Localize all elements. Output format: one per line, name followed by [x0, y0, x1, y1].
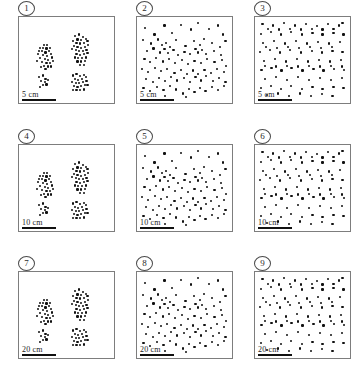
data-point: [319, 320, 321, 322]
data-point: [39, 312, 41, 314]
data-point: [36, 60, 38, 62]
data-point: [200, 190, 202, 192]
data-point: [177, 309, 179, 311]
data-point: [297, 204, 299, 206]
data-point: [41, 316, 43, 318]
data-point: [86, 52, 88, 54]
data-point: [73, 300, 75, 302]
data-point: [44, 51, 46, 53]
data-point: [321, 88, 323, 90]
data-point: [273, 295, 275, 297]
data-point: [284, 297, 286, 299]
data-point: [144, 27, 146, 29]
data-point: [312, 68, 314, 70]
data-point: [296, 313, 298, 315]
data-point: [40, 321, 42, 323]
data-point: [158, 332, 160, 334]
data-point: [42, 175, 44, 177]
data-point: [188, 343, 190, 345]
data-point: [341, 150, 343, 152]
data-point: [193, 315, 195, 317]
data-point: [280, 161, 282, 163]
data-point: [76, 46, 78, 48]
data-point: [142, 39, 144, 41]
data-point: [331, 46, 333, 48]
data-point: [279, 51, 281, 53]
data-point: [331, 350, 333, 352]
data-point: [175, 167, 177, 169]
data-point: [193, 91, 195, 93]
data-point: [174, 317, 176, 319]
data-point: [289, 177, 291, 179]
data-point: [74, 311, 76, 313]
data-point: [274, 186, 276, 188]
data-point: [76, 174, 78, 176]
data-point: [42, 54, 44, 56]
data-point: [153, 33, 155, 35]
data-point: [85, 49, 87, 51]
data-point: [338, 152, 340, 154]
panel-number-8: 8: [136, 256, 153, 271]
data-point: [177, 54, 179, 56]
data-point: [183, 179, 185, 181]
data-point: [263, 188, 265, 190]
data-point: [216, 68, 218, 70]
scale-bar-label: 5 cm: [140, 90, 174, 99]
data-point: [317, 169, 319, 171]
data-point: [180, 197, 182, 199]
data-point: [333, 196, 335, 198]
data-point: [340, 59, 342, 61]
data-point: [260, 33, 262, 35]
data-point: [41, 178, 43, 180]
data-point: [74, 35, 76, 37]
data-point: [285, 60, 287, 62]
data-point: [47, 59, 49, 61]
panel-number-1: 1: [18, 1, 35, 16]
data-point: [172, 304, 174, 306]
data-point: [40, 208, 42, 210]
data-point: [82, 50, 84, 52]
data-point: [37, 53, 39, 55]
data-point: [165, 170, 167, 172]
data-point: [290, 31, 292, 33]
data-point: [75, 201, 77, 203]
data-point: [311, 28, 313, 30]
data-point: [308, 65, 310, 67]
data-point: [332, 341, 334, 343]
data-point: [185, 96, 187, 98]
data-point: [343, 197, 345, 199]
data-point: [46, 44, 48, 46]
data-point: [51, 56, 53, 58]
data-point: [217, 24, 219, 26]
data-point: [218, 77, 220, 79]
data-point: [289, 283, 291, 285]
data-point: [275, 320, 277, 322]
data-point: [155, 312, 157, 314]
data-point: [275, 76, 277, 78]
plot-box-1: 5 cm: [18, 16, 115, 104]
data-point: [75, 344, 77, 346]
data-point: [175, 39, 177, 41]
data-point: [44, 313, 46, 315]
data-point: [39, 302, 41, 304]
data-point: [181, 59, 183, 61]
data-point: [269, 49, 271, 51]
data-point: [264, 320, 266, 322]
plot-box-3: 5 cm: [254, 16, 351, 104]
data-point: [39, 175, 41, 177]
data-point: [144, 155, 146, 157]
data-point: [161, 172, 163, 174]
data-point: [224, 295, 226, 297]
data-point: [46, 299, 48, 301]
scale-bar-line: [258, 354, 292, 356]
data-point: [197, 73, 199, 75]
data-point: [47, 207, 49, 209]
data-point: [298, 302, 300, 304]
data-point: [276, 175, 278, 177]
data-point: [77, 79, 79, 81]
data-point: [73, 340, 75, 342]
data-point: [290, 340, 292, 342]
data-point: [332, 283, 334, 285]
data-point: [341, 205, 343, 207]
data-point: [204, 218, 206, 220]
